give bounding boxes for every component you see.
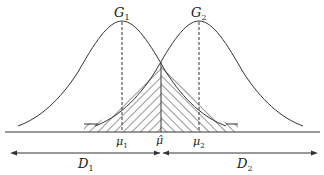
label-d2: D2 — [236, 156, 253, 173]
label-mu1: μ1 — [116, 135, 128, 150]
label-mu2: μ2 — [193, 135, 205, 150]
region-d2-arrow — [163, 151, 318, 156]
label-g2: G2 — [191, 5, 206, 22]
label-d1: D1 — [77, 156, 94, 173]
gaussian-overlap-diagram: G1 G2 μ1 μ̂ μ2 D1 D2 — [0, 0, 324, 175]
label-mu-hat: μ̂ — [156, 134, 163, 147]
label-g1: G1 — [114, 5, 129, 22]
region-d1-arrow — [10, 151, 160, 156]
